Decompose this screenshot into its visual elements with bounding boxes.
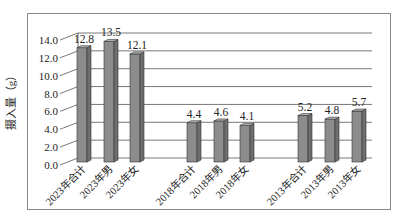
- data-label: 5.7: [352, 96, 367, 108]
- data-label: 4.6: [214, 106, 229, 118]
- bar: [214, 119, 228, 162]
- bar: [187, 121, 201, 162]
- gridline-depth: [60, 158, 78, 165]
- bars: [77, 39, 366, 162]
- y-tick-label: 6.0: [44, 105, 58, 117]
- y-tick-label: 4.0: [44, 123, 58, 135]
- data-label: 12.1: [127, 39, 147, 51]
- category-labels: 2023年合计2023年男2023年女2018年合计2018年男2018年女20…: [43, 162, 363, 207]
- bar: [352, 109, 366, 162]
- data-label: 4.1: [240, 110, 255, 122]
- gridline-depth: [60, 51, 78, 58]
- category-label: 2013年合计: [264, 162, 309, 207]
- y-tick-label: 2.0: [44, 141, 58, 153]
- y-axis-label: 摄入量（g）: [4, 70, 17, 131]
- gridline-depth: [60, 122, 78, 129]
- y-tick-label: 10.0: [39, 70, 59, 82]
- bar: [77, 46, 91, 162]
- gridline-depth: [60, 104, 78, 111]
- gridline-depth: [60, 69, 78, 76]
- y-axis: 0.02.04.06.08.010.012.014.0: [39, 34, 59, 171]
- bar: [104, 39, 118, 162]
- data-label: 13.5: [101, 26, 121, 38]
- gridline-depth: [60, 87, 78, 94]
- y-tick-label: 14.0: [39, 34, 59, 46]
- bar: [130, 52, 144, 162]
- data-label: 4.4: [187, 108, 202, 120]
- data-label: 5.2: [298, 101, 313, 113]
- bar: [240, 123, 254, 162]
- bar: [298, 114, 312, 162]
- bar: [325, 117, 339, 162]
- bar-chart: 0.02.04.06.08.010.012.014.0 12.813.512.1…: [0, 0, 400, 223]
- category-label: 2018年合计: [153, 162, 198, 207]
- gridline-depth: [60, 140, 78, 147]
- y-tick-label: 8.0: [44, 88, 58, 100]
- data-label: 4.8: [325, 104, 340, 116]
- y-tick-label: 0.0: [44, 159, 58, 171]
- data-label: 12.8: [74, 33, 94, 45]
- y-tick-label: 12.0: [39, 52, 59, 64]
